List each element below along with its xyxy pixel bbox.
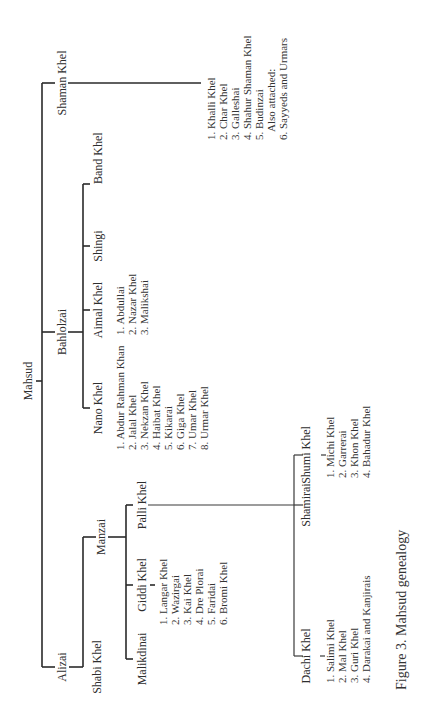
shumi-khel-items: 1. Michi Khel 2. Garrerai 3. Khon Khel 4… xyxy=(324,406,372,478)
label-nano-khel: Nano Khel xyxy=(91,381,105,434)
nano-khel-items: 1. Abdur Rahman Khan 2. Jalal Khel 3. Ne… xyxy=(114,345,210,450)
aimal-khel-items: 1. Abdullai 2. Nazar Khel 3. Malikshai xyxy=(114,274,150,335)
label-band-khel: Band Khel xyxy=(91,132,105,184)
label-malikdinai: Malikdinai xyxy=(135,632,149,685)
list-item: 1. Salimi Khel xyxy=(324,619,336,683)
list-item: Also attached: xyxy=(265,69,277,132)
list-item: 5. Kikarai xyxy=(162,406,174,450)
label-shumi-khel: Shumi Khel xyxy=(299,426,313,484)
list-item: 3. Malikshai xyxy=(138,280,150,335)
label-shaman-khel: Shaman Khel xyxy=(55,50,69,116)
label-shabi-khel: Shabi Khel xyxy=(90,640,104,694)
giddi-khel-items: 1. Langar Khel 2. Wazirgai 3. Kai Khel 4… xyxy=(157,559,229,625)
list-item: 5. Faridai xyxy=(205,583,217,625)
list-item: 4. Haibat Khel xyxy=(150,386,162,450)
list-item: 4. Bahadur Khel xyxy=(360,406,372,478)
figure-caption: Figure 3. Mahsud genealogy xyxy=(394,530,409,690)
list-item: 6. Giga Khel xyxy=(174,393,186,450)
list-item: 2. Mal Khel xyxy=(336,630,348,683)
list-item: 2. Nazar Khel xyxy=(126,274,138,335)
dachi-khel-items: 1. Salimi Khel 2. Mal Khel 3. Guri Khel … xyxy=(324,575,372,683)
list-item: 2. Jalal Khel xyxy=(126,395,138,450)
list-item: 1. Langar Khel xyxy=(157,559,169,625)
mahsud-genealogy-diagram: Mahsud Shaman Khel Bahlolzai Band Khel S… xyxy=(0,0,426,721)
label-aimal-khel: Aimal Khel xyxy=(91,281,105,338)
label-giddi-khel: Giddi Khel xyxy=(135,558,149,612)
list-item: 8. Urmar Khel xyxy=(198,386,210,450)
list-item: 3. Kai Khel xyxy=(181,574,193,625)
label-bahlolzai: Bahlolzai xyxy=(55,308,69,355)
list-item: 4. Dre Plorai xyxy=(193,568,205,625)
label-alizai: Alizai xyxy=(55,652,69,682)
label-dachi-khel: Dachi Khel xyxy=(299,628,313,684)
label-manzai: Manzai xyxy=(94,518,108,555)
label-palli-khel: Palli Khel xyxy=(135,480,149,529)
root-label-mahsud: Mahsud xyxy=(21,362,35,401)
label-shingi: Shingi xyxy=(91,230,105,262)
shaman-khel-items: 1. Khalli Khel 2. Char Khel 3. Galleshai… xyxy=(205,36,289,140)
list-item: 6. Bromi Khel xyxy=(217,562,229,625)
list-item: 4. Shahur Shaman Khel xyxy=(241,36,253,140)
list-item: 2. Char Khel xyxy=(217,83,229,140)
list-item: 2. Wazirgai xyxy=(169,575,181,625)
list-item: 3. Galleshai xyxy=(229,87,241,140)
list-item: 4. Darakai and Kanjirais xyxy=(360,575,372,683)
list-item: 1. Abdullai xyxy=(114,286,126,335)
list-item: 1. Michi Khel xyxy=(324,417,336,478)
list-item: 5. Budinzai xyxy=(253,89,265,140)
label-shamirai: Shamirai xyxy=(299,483,313,527)
list-item: 6. Sayyeds and Urmars xyxy=(277,38,289,140)
list-item: 2. Garrerai xyxy=(336,430,348,478)
list-item: 3. Guri Khel xyxy=(348,628,360,683)
list-item: 1. Khalli Khel xyxy=(205,77,217,140)
list-item: 3. Nekzan Khel xyxy=(138,381,150,450)
list-item: 3. Khon Khel xyxy=(348,418,360,478)
list-item: 1. Abdur Rahman Khan xyxy=(114,345,126,450)
list-item: 7. Umar Khel xyxy=(186,390,198,450)
